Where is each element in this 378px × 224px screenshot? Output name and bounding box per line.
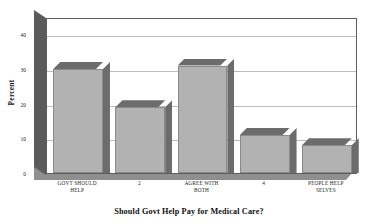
bar-top-face xyxy=(53,62,103,69)
bar-top-face xyxy=(178,59,228,66)
bar-front-face xyxy=(302,145,352,173)
bar-side-face xyxy=(227,59,234,173)
x-tick-line-2: HELP xyxy=(38,187,116,194)
bar-top-face xyxy=(302,138,352,145)
bar-agree-with-both[interactable] xyxy=(178,66,228,173)
bar-side-face xyxy=(165,100,172,173)
bar-front-face xyxy=(115,107,165,173)
bar-side-face xyxy=(352,138,359,173)
bar-front-face xyxy=(240,135,290,173)
bar-top-face xyxy=(115,100,165,107)
y-tick-label-20: 20 xyxy=(10,102,26,108)
bar-2[interactable] xyxy=(115,107,165,173)
bar-side-face xyxy=(103,62,110,173)
bar-4[interactable] xyxy=(240,135,290,173)
x-tick-line-2: SELVES xyxy=(287,187,365,194)
y-tick-label-10: 10 xyxy=(10,136,26,142)
gridline-40 xyxy=(47,36,356,37)
bar-top-face xyxy=(240,128,290,135)
y-tick-label-30: 30 xyxy=(10,67,26,73)
axis-left-wall xyxy=(34,10,46,175)
plot-area xyxy=(46,18,357,174)
x-tick-line-2: BOTH xyxy=(162,187,240,194)
y-tick-label-0: 0 xyxy=(10,171,26,177)
bar-govt-should-help[interactable] xyxy=(53,69,103,173)
x-tick-label-4: PEOPLE HELP SELVES xyxy=(287,180,365,194)
bar-side-face xyxy=(290,128,297,173)
bar-front-face xyxy=(178,66,228,173)
bar-front-face xyxy=(53,69,103,173)
x-tick-line-1: PEOPLE HELP xyxy=(287,180,365,187)
x-axis-title: Should Govt Help Pay for Medical Care? xyxy=(0,207,378,216)
y-tick-label-40: 40 xyxy=(10,32,26,38)
chart-figure: Percent 40 30 20 10 0 xyxy=(0,0,378,224)
bar-people-help-selves[interactable] xyxy=(302,145,352,173)
